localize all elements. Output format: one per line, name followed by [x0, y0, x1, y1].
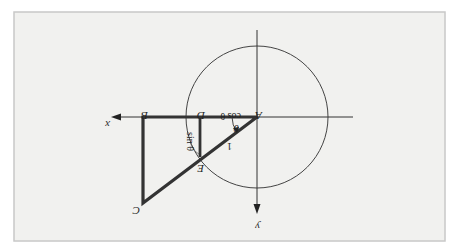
- label-B: B: [141, 110, 148, 122]
- x-axis-label: x: [105, 119, 111, 131]
- unit-circle-diagram: A B C D E x y cos θ sin θ θ 1: [0, 0, 454, 251]
- theta-label: θ: [233, 123, 239, 135]
- label-D: D: [197, 110, 206, 122]
- label-C: C: [132, 205, 140, 217]
- y-axis-label: y: [255, 221, 261, 233]
- cos-theta-label: cos θ: [220, 111, 241, 122]
- sin-theta-label: sin θ: [185, 132, 196, 151]
- label-E: E: [197, 163, 205, 175]
- figure-panel: [14, 12, 445, 241]
- label-A: A: [255, 110, 263, 122]
- hypotenuse-label: 1: [227, 141, 232, 152]
